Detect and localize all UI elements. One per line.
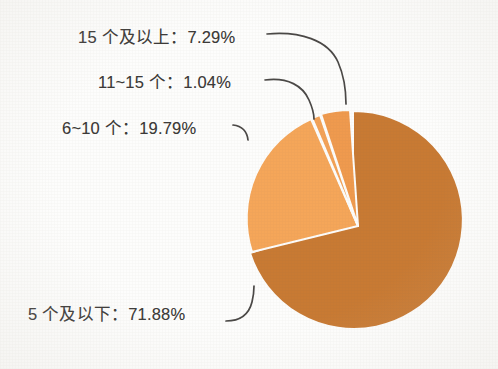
leader-line-6-to-10 (233, 125, 248, 140)
pie-label-6-to-10: 6~10 个：19.79% (62, 118, 196, 138)
pie-chart: 15 个及以上：7.29% 11~15 个：1.04% 6~10 个：19.79… (0, 0, 498, 369)
leader-line-11-to-15 (265, 79, 314, 119)
leader-line-15-and-above (267, 33, 346, 104)
pie-label-11-to-15: 11~15 个：1.04% (98, 72, 231, 92)
leader-line-5-and-under (226, 286, 254, 321)
pie-label-15-and-above: 15 个及以上：7.29% (78, 27, 235, 47)
pie-label-5-and-under: 5 个及以下：71.88% (28, 304, 185, 324)
